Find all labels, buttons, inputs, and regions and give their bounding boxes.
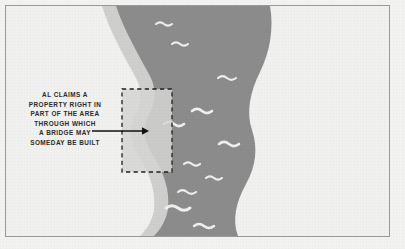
caption-line: A BRIDGE MAY	[14, 128, 116, 138]
caption-line: PROPERTY RIGHT IN	[14, 100, 116, 110]
caption-line: SOMEDAY BE BUILT	[14, 138, 116, 148]
figure-stage: AL CLAIMS A PROPERTY RIGHT IN PART OF TH…	[0, 0, 405, 249]
caption-line: THROUGH WHICH	[14, 119, 116, 129]
caption-line: PART OF THE AREA	[14, 109, 116, 119]
annotation-caption: AL CLAIMS A PROPERTY RIGHT IN PART OF TH…	[14, 90, 116, 148]
caption-line: AL CLAIMS A	[14, 90, 116, 100]
